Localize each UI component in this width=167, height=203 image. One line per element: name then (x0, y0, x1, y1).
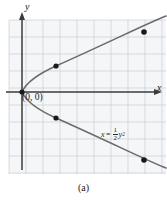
fraction-numerator: 1 (113, 127, 119, 134)
equation-equals: = (106, 131, 111, 139)
point-lower-outer (141, 157, 147, 163)
equation-annotation: x = 1 2 y 2 (101, 127, 125, 142)
point-upper-outer (141, 29, 147, 35)
equation-lhs: x (101, 131, 105, 139)
y-axis-label: y (25, 2, 29, 12)
x-axis-label: x (157, 83, 161, 93)
origin-point-label: (0, 0) (22, 93, 43, 103)
figure-caption: (a) (0, 182, 167, 193)
y-axis-arrowhead (19, 12, 25, 20)
fraction-denominator: 2 (113, 135, 119, 142)
equation-fraction: 1 2 (113, 127, 119, 142)
point-upper-inner (53, 63, 58, 68)
figure-container: y x (0, 0) x = 1 2 y 2 (a) (0, 0, 167, 203)
equation-exponent: 2 (122, 132, 125, 138)
point-lower-inner (53, 115, 58, 120)
